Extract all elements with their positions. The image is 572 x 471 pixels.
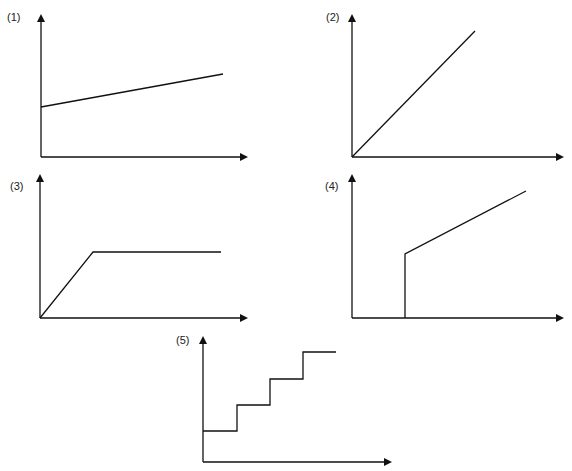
- graph-1-line: [41, 74, 223, 107]
- graph-4: [352, 176, 562, 318]
- graph-2-line: [352, 31, 475, 157]
- graph-4-line: [405, 191, 526, 318]
- graph-4-label: (4): [325, 180, 338, 192]
- graph-3: [40, 176, 246, 318]
- graph-5-label: (5): [176, 334, 189, 346]
- graph-5: [203, 338, 390, 462]
- graph-2-label: (2): [326, 11, 339, 23]
- graph-2: [352, 16, 562, 157]
- graph-5-steps: [203, 352, 336, 431]
- graph-1-label: (1): [7, 11, 20, 23]
- graph-3-line: [40, 252, 221, 318]
- graph-1: [41, 16, 246, 157]
- graphs-canvas: [0, 0, 572, 471]
- graph-3-label: (3): [10, 180, 23, 192]
